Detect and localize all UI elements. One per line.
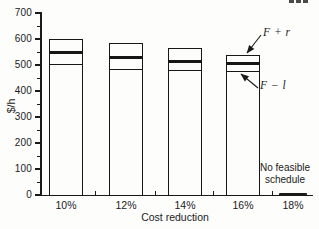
bar-14% [168, 48, 202, 196]
bar-thick-mid-line [169, 60, 201, 63]
y-axis-line [40, 12, 42, 196]
y-major-tick [35, 64, 41, 65]
y-minor-tick [37, 156, 41, 157]
y-major-tick [35, 90, 41, 91]
y-tick-label: 100 [6, 164, 32, 174]
x-category-label: 16% [223, 199, 263, 211]
y-tick-label: 300 [6, 112, 32, 122]
x-category-label: 10% [46, 199, 86, 211]
bar-thick-mid-line [110, 56, 142, 59]
y-major-tick [35, 194, 41, 195]
x-boundary-tick [155, 191, 156, 196]
chart-figure: $/h 700600500400300200100010%12%14%16%18… [0, 0, 319, 229]
page-number-fragment-mark [289, 0, 294, 3]
bar-thin-lower-line [169, 70, 201, 71]
page-number-fragment-mark [296, 0, 301, 3]
note-line-1: No feasible [243, 162, 319, 174]
x-category-label: 12% [106, 199, 146, 211]
page-number-fragment-mark [303, 0, 308, 3]
y-minor-tick [37, 182, 41, 183]
x-category-label: 14% [165, 199, 205, 211]
x-boundary-tick [95, 191, 96, 196]
zero-height-bar-no-feasible [279, 193, 307, 196]
note-line-2: schedule [243, 174, 319, 186]
bar-12% [109, 43, 143, 196]
y-major-tick [35, 38, 41, 39]
x-boundary-tick [213, 191, 214, 196]
x-category-label: 18% [273, 199, 313, 211]
y-minor-tick [37, 52, 41, 53]
no-feasible-schedule-note: No feasible schedule [243, 162, 319, 185]
y-minor-tick [37, 26, 41, 27]
y-minor-tick [37, 104, 41, 105]
bar-thin-lower-line [227, 71, 259, 72]
y-tick-label: 700 [6, 8, 32, 18]
annotation-f-plus-r: F + r [263, 26, 291, 38]
x-boundary-tick [272, 191, 273, 196]
annotation-f-minus-l: F − l [260, 79, 286, 91]
y-tick-label: 200 [6, 138, 32, 148]
bar-thick-mid-line [50, 51, 82, 54]
y-tick-label: 500 [6, 60, 32, 70]
y-tick-label: 600 [6, 34, 32, 44]
y-major-tick [35, 12, 41, 13]
y-minor-tick [37, 130, 41, 131]
bar-10% [49, 39, 83, 196]
bar-thin-lower-line [110, 69, 142, 70]
y-major-tick [35, 116, 41, 117]
y-major-tick [35, 142, 41, 143]
arrow-to-bar-top [247, 35, 261, 53]
x-axis-title: Cost reduction [115, 211, 235, 223]
bar-thick-mid-line [227, 62, 259, 65]
y-major-tick [35, 168, 41, 169]
bar-thin-lower-line [50, 64, 82, 65]
y-tick-label: 0 [6, 190, 32, 200]
y-tick-label: 400 [6, 86, 32, 96]
y-minor-tick [37, 78, 41, 79]
